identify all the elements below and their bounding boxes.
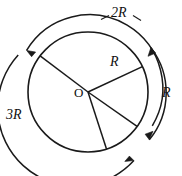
- radius-label-R: R: [110, 55, 119, 69]
- arc-label-R: R: [162, 86, 171, 100]
- figure-canvas: [0, 0, 182, 176]
- arrowhead-3R: [125, 156, 134, 161]
- radius-lower: [88, 92, 107, 149]
- centre-label-O: O: [74, 86, 83, 99]
- arrowhead-2R: [27, 50, 36, 56]
- arc-label-3R: 3R: [6, 108, 22, 122]
- leader-2R-right: [133, 16, 141, 21]
- geometry-figure: 2R 3R R R O: [0, 0, 182, 176]
- arc-label-2R: 2R: [111, 6, 127, 20]
- radius-lower-right: [88, 92, 137, 126]
- arc-2R: [27, 15, 163, 126]
- radius-upper-right: [88, 67, 142, 92]
